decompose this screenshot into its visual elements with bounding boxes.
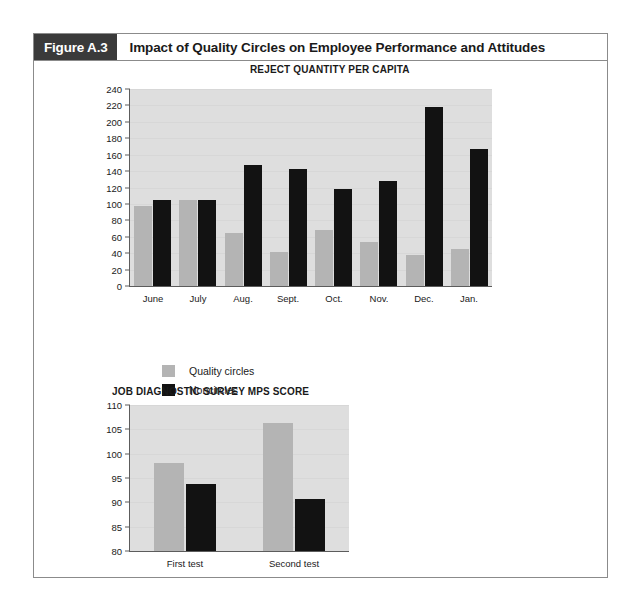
y-tick-label: 100: [86, 448, 122, 459]
chart-2-title: JOB DIAGNOSTIC SURVEY MPS SCORE: [112, 386, 309, 397]
bar: [295, 499, 325, 551]
gridline: [130, 105, 492, 106]
x-tick-label: Dec.: [414, 293, 434, 304]
y-tick-label: 0: [86, 281, 122, 292]
y-tick-label: 240: [86, 84, 122, 95]
y-tick-mark: [125, 269, 130, 270]
y-tick-label: 60: [86, 231, 122, 242]
bar: [263, 423, 293, 551]
bar: [153, 200, 171, 286]
figure-frame: Figure A.3 Impact of Quality Circles on …: [33, 33, 608, 578]
bar: [244, 165, 262, 286]
x-tick-label: First test: [167, 558, 203, 569]
x-tick-label: Jan.: [460, 293, 478, 304]
y-tick-mark: [125, 220, 130, 221]
x-tick-label: Second test: [269, 558, 319, 569]
y-tick-mark: [125, 551, 130, 552]
bar: [406, 255, 424, 286]
bar: [134, 206, 152, 286]
bar: [451, 249, 469, 286]
bar: [315, 230, 333, 286]
x-axis-line: [129, 551, 349, 552]
x-axis-line: [129, 286, 492, 287]
y-tick-mark: [125, 187, 130, 188]
gridline: [130, 89, 492, 90]
figure-header: Figure A.3 Impact of Quality Circles on …: [34, 34, 607, 61]
y-tick-mark: [125, 203, 130, 204]
y-tick-label: 85: [86, 521, 122, 532]
y-tick-label: 200: [86, 116, 122, 127]
bar: [360, 242, 378, 286]
bar: [270, 252, 288, 286]
bar: [186, 484, 216, 551]
y-tick-mark: [125, 429, 130, 430]
y-tick-mark: [125, 253, 130, 254]
y-tick-label: 80: [86, 215, 122, 226]
y-tick-mark: [125, 405, 130, 406]
y-tick-mark: [125, 502, 130, 503]
gridline: [130, 429, 349, 430]
y-tick-label: 110: [86, 400, 122, 411]
x-tick-label: June: [143, 293, 164, 304]
gridline: [130, 405, 349, 406]
chart-1-title: REJECT QUANTITY PER CAPITA: [250, 64, 410, 75]
gridline: [130, 454, 349, 455]
y-tick-mark: [125, 89, 130, 90]
legend-swatch-quality-circles: [162, 365, 175, 377]
bar: [379, 181, 397, 286]
bar: [154, 463, 184, 551]
y-tick-mark: [125, 171, 130, 172]
y-tick-label: 80: [86, 546, 122, 557]
y-tick-label: 180: [86, 133, 122, 144]
legend-label-quality-circles: Quality circles: [189, 365, 254, 377]
y-tick-mark: [125, 236, 130, 237]
bar: [179, 200, 197, 286]
bar: [289, 169, 307, 286]
x-tick-label: July: [190, 293, 207, 304]
bar: [198, 200, 216, 286]
bar: [225, 233, 243, 286]
bar: [470, 149, 488, 286]
legend-item-quality-circles: Quality circles: [162, 361, 254, 380]
y-tick-label: 140: [86, 166, 122, 177]
x-tick-label: Nov.: [370, 293, 389, 304]
y-tick-mark: [125, 138, 130, 139]
y-tick-label: 90: [86, 497, 122, 508]
y-tick-label: 220: [86, 100, 122, 111]
y-tick-mark: [125, 526, 130, 527]
x-tick-label: Oct.: [325, 293, 342, 304]
y-tick-mark: [125, 154, 130, 155]
x-tick-label: Sept.: [277, 293, 299, 304]
figure-number-badge: Figure A.3: [34, 34, 117, 60]
y-tick-mark: [125, 121, 130, 122]
y-tick-mark: [125, 105, 130, 106]
y-tick-label: 95: [86, 473, 122, 484]
y-tick-label: 105: [86, 424, 122, 435]
figure-title: Impact of Quality Circles on Employee Pe…: [117, 34, 607, 60]
y-tick-label: 100: [86, 198, 122, 209]
y-tick-mark: [125, 286, 130, 287]
y-tick-mark: [125, 453, 130, 454]
y-tick-mark: [125, 478, 130, 479]
y-tick-label: 40: [86, 248, 122, 259]
x-tick-label: Aug.: [233, 293, 253, 304]
bar: [334, 189, 352, 286]
y-tick-label: 160: [86, 149, 122, 160]
bar: [425, 107, 443, 286]
y-tick-label: 120: [86, 182, 122, 193]
y-tick-label: 20: [86, 264, 122, 275]
